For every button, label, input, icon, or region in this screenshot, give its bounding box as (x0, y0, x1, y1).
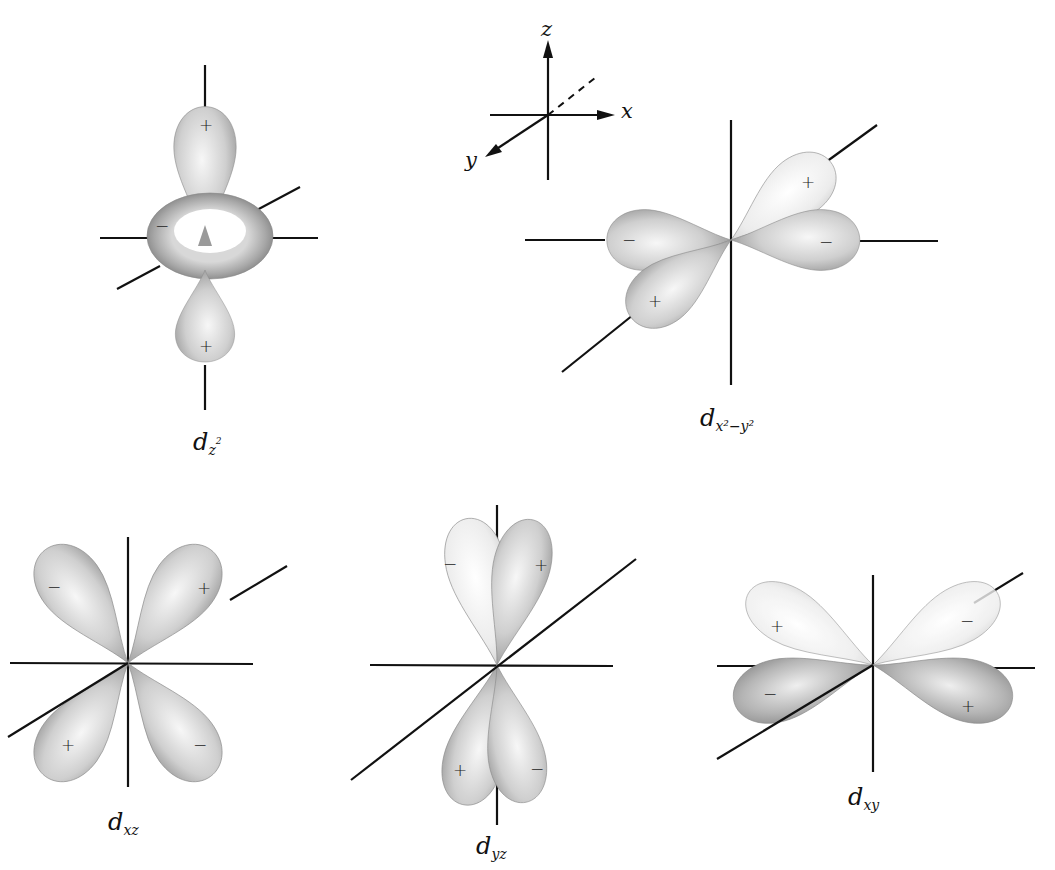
sign-minus: − (443, 554, 457, 574)
label-subscript: yz (491, 846, 506, 862)
ref-y-label: y (465, 148, 477, 172)
lobe-lower-left-plus (19, 644, 154, 795)
orbital-dyz: − + + − (351, 505, 636, 825)
label-subscript: xz (123, 822, 138, 838)
ref-x-label: x (621, 99, 633, 123)
ref-y-axis (492, 115, 548, 152)
label-subscript: xy (863, 797, 879, 813)
label-symbol: d (108, 808, 123, 836)
orbital-dz2: + − + (100, 65, 318, 410)
label-symbol: d (700, 404, 715, 432)
sign-minus: − (193, 735, 207, 755)
x-axis (370, 665, 613, 666)
orbital-dxz: − + + − (8, 531, 287, 796)
sign-plus: + (801, 172, 815, 192)
y-axis-back (230, 566, 287, 600)
ref-z-arrow-icon (543, 40, 553, 58)
y-axis-back (826, 125, 877, 162)
orbital-dx2-y2: + − − + (525, 120, 938, 385)
sign-plus: + (961, 696, 975, 716)
sign-plus: + (648, 291, 662, 311)
y-axis-back (255, 187, 300, 211)
sign-minus: − (47, 577, 61, 597)
ref-y-axis-back (548, 78, 595, 115)
label-dxy: dxy (848, 783, 879, 813)
label-dx2-y2: dx²−y² (700, 404, 754, 434)
sign-plus: + (199, 115, 213, 135)
sign-minus: − (155, 216, 169, 236)
label-subscript: x²−y² (715, 418, 754, 434)
reference-axes (485, 40, 615, 180)
label-superscript: 2 (216, 436, 222, 446)
label-symbol: d (848, 783, 863, 811)
label-dyz: dyz (476, 832, 507, 862)
sign-minus: − (819, 232, 833, 252)
sign-plus: + (197, 578, 211, 598)
lobe-upper-right-plus (102, 531, 237, 682)
ref-x-arrow-icon (597, 110, 615, 120)
d-orbitals-figure: + − + + − − + − + (0, 0, 1055, 870)
torus-ring (147, 193, 273, 279)
label-dxz: dxz (108, 808, 139, 838)
orbital-dxy: + − − + (717, 568, 1035, 772)
y-axis-front (562, 315, 633, 372)
label-dz2: dz2 (193, 428, 222, 458)
sign-minus: − (763, 684, 777, 704)
sign-plus: + (534, 555, 548, 575)
sign-minus: − (622, 230, 636, 250)
label-symbol: d (476, 832, 491, 860)
sign-plus: + (61, 735, 75, 755)
lobe-upper-left-minus (19, 531, 154, 682)
label-subscript: z (208, 442, 215, 458)
x-axis (10, 663, 253, 664)
sign-minus: − (960, 611, 974, 631)
sign-plus: + (453, 760, 467, 780)
sign-plus: + (770, 616, 784, 636)
y-axis-front (117, 266, 160, 289)
ref-z-label: z (541, 17, 552, 41)
sign-plus: + (199, 336, 213, 356)
label-symbol: d (193, 428, 208, 456)
sign-minus: − (530, 759, 544, 779)
